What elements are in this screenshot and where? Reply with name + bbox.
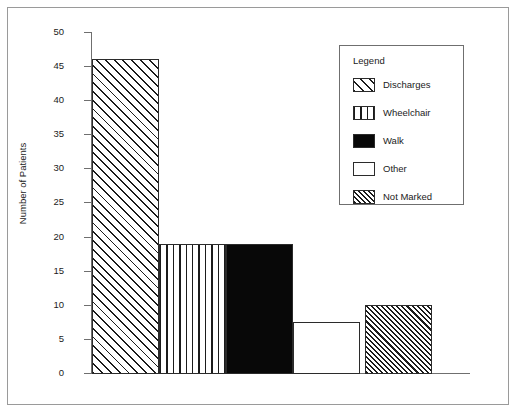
y-tick-label-15: 15 [24, 266, 64, 276]
legend-label-walk: Walk [383, 135, 404, 146]
y-tick-mark-5 [84, 339, 92, 340]
y-tick-label-35: 35 [24, 129, 64, 139]
bar-chart-plot-area: Number of Patients 50 45 40 35 30 25 20 … [8, 8, 510, 406]
y-tick-mark-10 [84, 305, 92, 306]
y-tick-label-0: 0 [24, 368, 64, 378]
y-tick-mark-25 [84, 202, 92, 203]
y-tick-label-40: 40 [24, 95, 64, 105]
bar-not-marked [365, 305, 432, 374]
legend-item-walk: Walk [353, 133, 404, 148]
legend-swatch-walk-icon [353, 134, 375, 148]
y-tick-mark-20 [84, 237, 92, 238]
legend-item-not-marked: Not Marked [353, 189, 432, 204]
bar-discharges [92, 59, 159, 374]
y-tick-label-10: 10 [24, 300, 64, 310]
figure-frame: Number of Patients 50 45 40 35 30 25 20 … [7, 7, 509, 405]
y-tick-mark-15 [84, 271, 92, 272]
legend-item-discharges: Discharges [353, 77, 431, 92]
legend-swatch-other-icon [353, 162, 375, 176]
bar-wheelchair [159, 244, 226, 374]
legend-label-other: Other [383, 163, 407, 174]
y-tick-mark-30 [84, 168, 92, 169]
legend-item-wheelchair: Wheelchair [353, 105, 431, 120]
chart-legend: Legend Discharges Wheelchair Walk Other … [339, 45, 464, 205]
y-tick-mark-0 [84, 373, 92, 374]
y-tick-label-5: 5 [24, 334, 64, 344]
legend-label-discharges: Discharges [383, 79, 431, 90]
y-tick-label-25: 25 [24, 197, 64, 207]
bar-walk [226, 244, 293, 374]
legend-item-other: Other [353, 161, 407, 176]
y-tick-mark-50 [84, 32, 92, 33]
bar-other [293, 322, 360, 374]
y-tick-mark-40 [84, 100, 92, 101]
y-tick-label-20: 20 [24, 232, 64, 242]
legend-label-not-marked: Not Marked [383, 191, 432, 202]
y-tick-label-30: 30 [24, 163, 64, 173]
figure-caption [0, 0, 518, 1]
legend-swatch-wheelchair-icon [353, 106, 375, 120]
legend-swatch-not-marked-icon [353, 190, 375, 204]
legend-label-wheelchair: Wheelchair [383, 107, 431, 118]
y-tick-label-45: 45 [24, 61, 64, 71]
y-tick-label-50: 50 [24, 27, 64, 37]
y-axis-title: Number of Patients [17, 124, 28, 244]
legend-swatch-discharges-icon [353, 78, 375, 92]
y-tick-mark-45 [84, 66, 92, 67]
legend-title: Legend [353, 55, 385, 66]
y-tick-mark-35 [84, 134, 92, 135]
